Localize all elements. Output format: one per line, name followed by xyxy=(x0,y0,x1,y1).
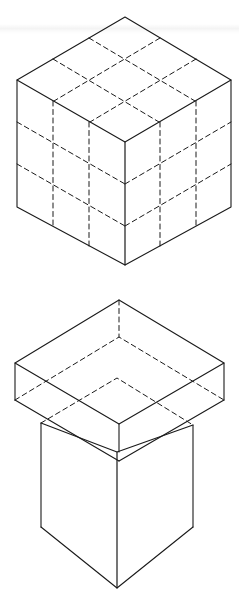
cube-top-back-edges xyxy=(17,80,231,142)
right-grid-hline xyxy=(125,164,231,226)
right-face-grid xyxy=(125,101,231,249)
slab-bottom-front-left-edge xyxy=(15,400,119,461)
slab-bottom-back-hidden-edges xyxy=(15,337,224,400)
figure-sheet: 3 by 3 by 3 subdivided cube Thin rectang… xyxy=(0,0,239,610)
slab-bottom-front-right-edge xyxy=(119,400,224,461)
box-top-front-edges xyxy=(41,423,193,452)
drawing-canvas xyxy=(0,0,239,610)
left-grid-hline xyxy=(17,122,125,184)
top-face-grid xyxy=(53,38,196,122)
figure-1-subdivided-cube xyxy=(17,17,231,265)
right-grid-hline xyxy=(125,122,231,184)
box-top-back-hidden-edges xyxy=(41,378,193,425)
left-grid-hline xyxy=(17,164,125,226)
left-face-grid xyxy=(17,101,125,249)
figure-2-slab-on-box xyxy=(15,300,224,588)
